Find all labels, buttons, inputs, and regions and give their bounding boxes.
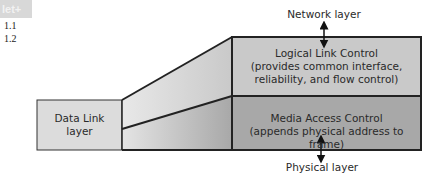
llc-line2: (provides common interface,: [232, 60, 421, 73]
data-link-label: Data Link layer: [37, 112, 122, 138]
physical-layer-label: Physical layer: [272, 161, 372, 174]
mac-line2: (appends physical address to frame): [232, 125, 421, 151]
mac-label: Media Access Control (appends physical a…: [232, 112, 421, 151]
network-layer-label: Network layer: [274, 8, 374, 21]
llc-label: Logical Link Control (provides common in…: [232, 47, 421, 86]
data-link-line2: layer: [37, 125, 122, 138]
llc-title: Logical Link Control: [232, 47, 421, 60]
data-link-line1: Data Link: [37, 112, 122, 125]
llc-line3: reliability, and flow control): [232, 73, 421, 86]
data-link-layer-diagram: [0, 0, 434, 180]
mac-title: Media Access Control: [232, 112, 421, 125]
